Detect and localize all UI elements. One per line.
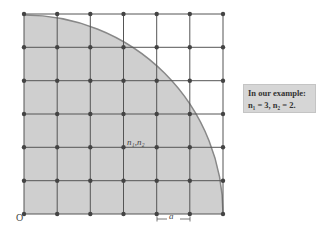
quarter-circle-lattice-diagram	[0, 0, 334, 233]
spacing-label: a	[169, 211, 174, 221]
note-title: In our example:	[248, 87, 311, 99]
example-note-box: In our example: n₁ = 3, n₂ = 2.	[243, 84, 316, 113]
origin-label: O	[16, 212, 23, 223]
lattice-point-label: n₁,n₂	[127, 137, 145, 147]
note-values: n₁ = 3, n₂ = 2.	[248, 99, 311, 111]
